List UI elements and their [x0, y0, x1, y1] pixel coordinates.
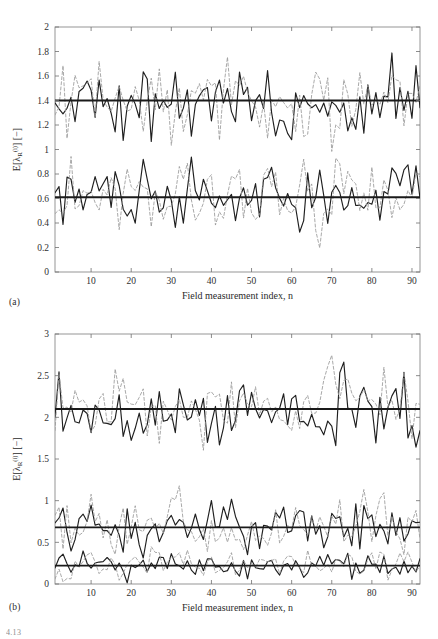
y-tick-label: 0 — [44, 579, 49, 589]
chart-a-canvas: 00.20.40.60.811.21.41.61.821020304050607… — [0, 0, 438, 320]
x-tick-label: 10 — [86, 276, 96, 286]
x-tick-label: 30 — [167, 276, 177, 286]
x-tick-label: 40 — [207, 276, 217, 286]
x-tick-label: 20 — [126, 276, 136, 286]
x-axis-label: Field measurement index, n — [182, 290, 293, 301]
y-tick-label: 1.6 — [37, 71, 49, 81]
y-tick-label: 0.4 — [37, 218, 49, 228]
x-tick-label: 60 — [287, 588, 297, 598]
y-tick-label: 1.8 — [37, 47, 49, 57]
y-tick-label: 1.5 — [37, 454, 49, 464]
y-axis-label: E[λR(i)] [−] — [11, 437, 24, 480]
x-tick-label: 20 — [126, 588, 136, 598]
x-axis-label: Field measurement index, n — [182, 602, 293, 613]
y-tick-label: 2.5 — [37, 371, 49, 381]
y-tick-label: 2 — [44, 413, 49, 423]
panel-a-tag: (a) — [9, 297, 20, 307]
y-tick-label: 1.2 — [37, 120, 49, 130]
x-tick-label: 30 — [167, 588, 177, 598]
y-tick-label: 3 — [44, 329, 49, 339]
y-tick-label: 1 — [44, 496, 49, 506]
y-tick-label: 1.4 — [37, 96, 49, 106]
y-tick-label: 0 — [44, 267, 49, 277]
plot-frame — [55, 334, 420, 584]
panel-b-tag: (b) — [9, 602, 21, 612]
y-tick-label: 2 — [44, 22, 49, 32]
caption-stub: 4.13 — [6, 628, 126, 637]
panel-a: 00.20.40.60.811.21.41.61.821020304050607… — [0, 0, 438, 320]
y-axis-label: E[λR(i)] [−] — [11, 128, 24, 171]
y-tick-label: 0.2 — [37, 243, 49, 253]
x-tick-label: 10 — [86, 588, 96, 598]
y-tick-label: 0.8 — [37, 169, 49, 179]
x-tick-label: 90 — [407, 588, 417, 598]
chart-b-canvas: 00.511.522.53102030405060708090Field mea… — [0, 320, 438, 639]
panel-b: 00.511.522.53102030405060708090Field mea… — [0, 320, 438, 639]
x-tick-label: 80 — [367, 276, 377, 286]
x-tick-label: 40 — [207, 588, 217, 598]
x-tick-label: 50 — [247, 276, 257, 286]
figure-root: 00.20.40.60.811.21.41.61.821020304050607… — [0, 0, 438, 639]
x-tick-label: 50 — [247, 588, 257, 598]
x-tick-label: 70 — [327, 588, 337, 598]
x-tick-label: 80 — [367, 588, 377, 598]
y-tick-label: 0.6 — [37, 194, 49, 204]
y-tick-label: 1 — [44, 145, 49, 155]
plot-frame — [55, 27, 420, 272]
x-tick-label: 70 — [327, 276, 337, 286]
x-tick-label: 60 — [287, 276, 297, 286]
x-tick-label: 90 — [407, 276, 417, 286]
y-tick-label: 0.5 — [37, 538, 49, 548]
